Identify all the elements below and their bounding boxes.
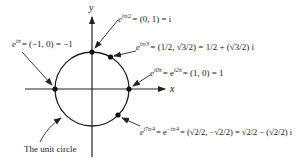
svg-text:ei0π= ei2π= (1, 0) = 1: ei0π= ei2π= (1, 0) = 1 — [150, 67, 224, 78]
x-axis: x — [25, 83, 175, 94]
point-pi-over-3 — [108, 54, 113, 59]
unit-circle-label: The unit circle — [24, 144, 76, 154]
point-top — [89, 49, 94, 54]
label-pi-over-3: eiπ/3= (1/2, √3/2) = 1/2 + (√3/2) i — [136, 41, 254, 52]
point-7pi-over-4 — [115, 112, 120, 117]
label-left: eiπ= (−1, 0) = −1 — [12, 38, 73, 49]
label-right: ei0π= ei2π= (1, 0) = 1 — [150, 67, 224, 78]
point-left — [52, 86, 57, 91]
x-axis-label: x — [169, 83, 175, 94]
label-top: eiπ/2= (0, 1) = i — [118, 13, 172, 24]
svg-text:eiπ/2= (0, 1) = i: eiπ/2= (0, 1) = i — [118, 13, 172, 24]
unit-circle-diagram: x y eiπ/2= (0, 1) = i eiπ/3= (1/2, √3/2)… — [0, 0, 304, 164]
y-axis-label: y — [88, 2, 94, 13]
svg-text:eiπ/3= (1/2, √3/2) = 1/2 + (√3: eiπ/3= (1/2, √3/2) = 1/2 + (√3/2) i — [136, 41, 254, 52]
svg-text:ei7π/4= e−iπ/4= (√2/2, −√2/2): ei7π/4= e−iπ/4= (√2/2, −√2/2) = √2/2 − (… — [140, 126, 293, 137]
svg-text:eiπ= (−1, 0) = −1: eiπ= (−1, 0) = −1 — [12, 38, 73, 49]
label-7pi-over-4: ei7π/4= e−iπ/4= (√2/2, −√2/2) = √2/2 − (… — [140, 126, 293, 137]
y-axis: y — [88, 2, 94, 157]
point-right — [126, 86, 131, 91]
